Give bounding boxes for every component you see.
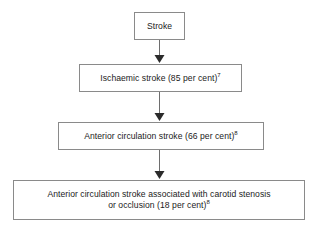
node-anterior-circulation-stroke-reference: 8 [234, 130, 237, 136]
node-ischaemic-stroke: Ischaemic stroke (85 per cent)7 [79, 64, 242, 92]
node-stroke-label: Stroke [147, 21, 172, 32]
node-carotid-stenosis-occlusion-label: Anterior circulation stroke associated w… [47, 189, 270, 211]
node-carotid-stenosis-occlusion-text-line-1: Anterior circulation stroke associated w… [47, 189, 270, 199]
node-carotid-stenosis-occlusion-text-line-2: or occlusion (18 per cent) [108, 200, 206, 210]
node-anterior-circulation-stroke: Anterior circulation stroke (66 per cent… [58, 122, 264, 150]
edge-ischaemic-to-anterior-arrowhead [155, 113, 165, 121]
node-anterior-circulation-stroke-text: Anterior circulation stroke (66 per cent… [84, 131, 234, 141]
node-anterior-circulation-stroke-label: Anterior circulation stroke (66 per cent… [84, 131, 238, 142]
node-carotid-stenosis-occlusion-reference: 8 [206, 199, 209, 205]
flowchart-diagram: Stroke Ischaemic stroke (85 per cent)7 A… [0, 0, 317, 231]
node-ischaemic-stroke-label: Ischaemic stroke (85 per cent)7 [100, 73, 220, 84]
node-carotid-stenosis-occlusion: Anterior circulation stroke associated w… [13, 180, 305, 220]
node-stroke: Stroke [134, 12, 185, 40]
node-ischaemic-stroke-reference: 7 [217, 72, 220, 78]
edge-stroke-to-ischaemic-arrowhead [155, 55, 165, 63]
node-ischaemic-stroke-text: Ischaemic stroke (85 per cent) [100, 73, 217, 83]
edge-anterior-to-carotid-arrowhead [155, 171, 165, 179]
